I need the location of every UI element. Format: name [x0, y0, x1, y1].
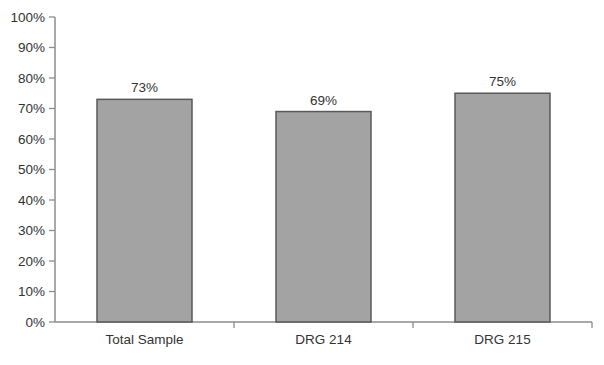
bar-value-label: 75% [489, 74, 516, 89]
y-axis-tick-label: 70% [18, 101, 45, 116]
x-axis-category-label: DRG 214 [295, 332, 352, 347]
bar-drg-215 [455, 93, 550, 322]
y-axis-tick-label: 30% [18, 223, 45, 238]
x-axis-category-label: Total Sample [105, 332, 183, 347]
bar-chart: 0%10%20%30%40%50%60%70%80%90%100%73%Tota… [0, 0, 604, 365]
y-axis-tick-label: 100% [10, 10, 45, 25]
y-axis-tick-label: 10% [18, 284, 45, 299]
bar-chart-canvas: 0%10%20%30%40%50%60%70%80%90%100%73%Tota… [0, 0, 604, 365]
y-axis-tick-label: 50% [18, 162, 45, 177]
bar-total-sample [97, 99, 192, 322]
y-axis-tick-label: 80% [18, 71, 45, 86]
y-axis-tick-label: 40% [18, 193, 45, 208]
y-axis-tick-label: 0% [25, 315, 45, 330]
y-axis-tick-label: 90% [18, 40, 45, 55]
x-axis-category-label: DRG 215 [474, 332, 530, 347]
y-axis-tick-label: 20% [18, 254, 45, 269]
bar-drg-214 [276, 112, 371, 322]
y-axis-tick-label: 60% [18, 132, 45, 147]
bar-value-label: 73% [131, 80, 158, 95]
bar-value-label: 69% [310, 93, 337, 108]
